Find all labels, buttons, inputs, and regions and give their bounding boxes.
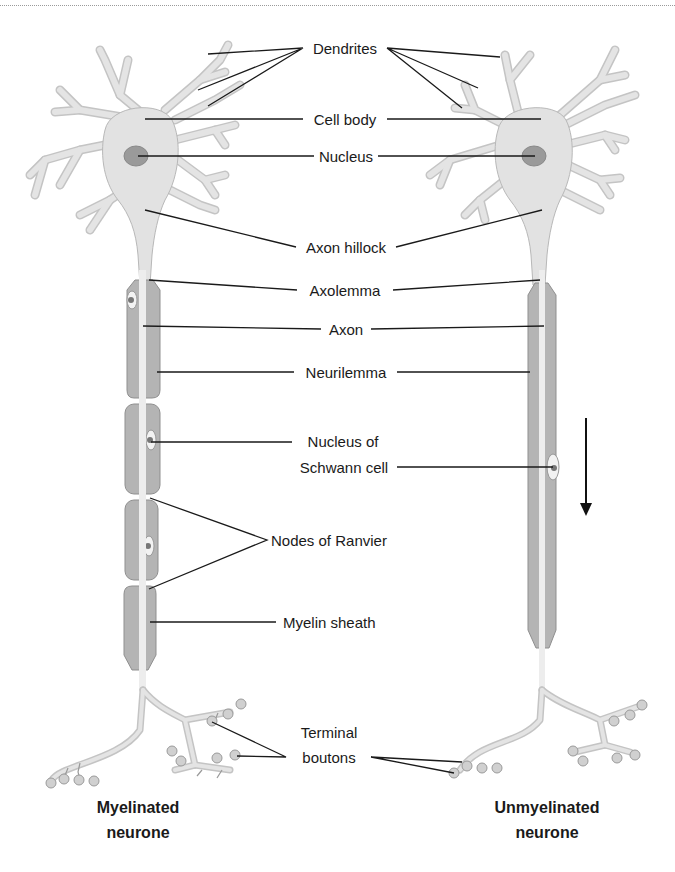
label-axon: Axon: [329, 321, 363, 338]
label-dendrites: Dendrites: [313, 40, 377, 57]
caption-myelinated-line1: Myelinated: [97, 799, 180, 816]
label-myelin-sheath: Myelin sheath: [283, 614, 376, 631]
label-nodes-of-ranvier: Nodes of Ranvier: [271, 532, 387, 549]
captions: Myelinated neurone Unmyelinated neurone: [97, 799, 600, 841]
axon-left: [139, 270, 146, 690]
caption-myelinated-line2: neurone: [106, 824, 169, 841]
label-terminal-boutons-line1: Terminal: [301, 724, 358, 741]
cell-body-right: [495, 108, 572, 285]
label-nucleus-of-schwann-line2: Schwann cell: [300, 459, 388, 476]
unmyelinated-neurone: [430, 50, 647, 778]
label-axon-hillock: Axon hillock: [306, 239, 387, 256]
terminal-branches-right: [449, 690, 647, 778]
caption-unmyelinated-line1: Unmyelinated: [495, 799, 600, 816]
axon-right: [539, 270, 545, 690]
terminal-branches-left: [46, 690, 246, 788]
label-nucleus-of-schwann-line1: Nucleus of: [308, 433, 380, 450]
caption-unmyelinated-line2: neurone: [515, 824, 578, 841]
neurone-diagram: Dendrites Cell body Nucleus Axon hillock…: [0, 0, 675, 872]
label-terminal-boutons-line2: boutons: [302, 749, 355, 766]
label-axolemma: Axolemma: [310, 282, 382, 299]
label-neurilemma: Neurilemma: [306, 364, 388, 381]
labels: Dendrites Cell body Nucleus Axon hillock…: [271, 40, 388, 766]
arrow-down-icon: [580, 418, 592, 516]
label-nucleus: Nucleus: [319, 148, 373, 165]
label-cell-body: Cell body: [314, 111, 377, 128]
